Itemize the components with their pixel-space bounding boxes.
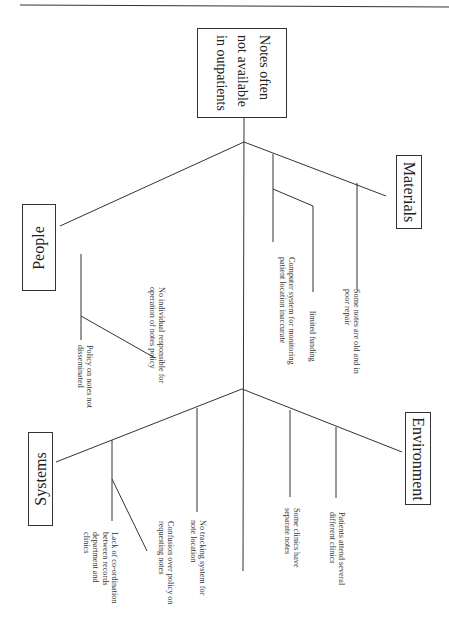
cause-line: limited funding (308, 311, 317, 362)
category-label-materials: Materials (400, 162, 418, 222)
cause-environment-2: Patients attend several different clinic… (327, 512, 346, 585)
bone-materials (244, 142, 386, 196)
category-label-environment: Environment (409, 417, 427, 501)
cause-line: different clinics (327, 512, 336, 585)
category-box-people: People (22, 204, 56, 291)
cause-systems-3: No tracking system for note location (188, 520, 207, 595)
cause-line: department and (91, 532, 100, 603)
cause-materials-1: Computer system for monitoring patient l… (277, 257, 296, 365)
cause-line: Confusion over policy on (166, 521, 175, 604)
cause-line: Some notes are old and in (352, 289, 361, 374)
cause-line: Some clinics have (292, 508, 301, 568)
cause-people-1: Policy on notes not disseminated (75, 345, 94, 408)
cause-line: disseminated (75, 345, 84, 408)
cause-line: note location (188, 520, 197, 595)
cause-materials-2: limited funding (308, 311, 317, 362)
materials-sub-line-2a (273, 189, 313, 206)
category-label-systems: Systems (32, 452, 50, 505)
cause-line: separate notes (282, 508, 291, 568)
bone-environment (242, 389, 402, 452)
cause-people-2: No individual responsible for operation … (147, 287, 166, 383)
cause-line: operation of notes policy (147, 287, 156, 383)
cause-line: poor repair (342, 289, 351, 374)
cause-systems-1: Lack of co-ordination between records de… (81, 532, 119, 603)
cause-line: clinics (81, 532, 90, 603)
category-box-environment: Environment (405, 412, 431, 505)
effect-line-3: in outpatients (209, 35, 231, 111)
category-box-materials: Materials (396, 155, 422, 229)
effect-line-1: Notes often (253, 35, 275, 111)
cause-line: patient location inaccurate (277, 257, 286, 365)
cause-line: Policy on notes not (85, 345, 94, 408)
cause-systems-2: Confusion over policy on requesting note… (156, 521, 175, 604)
cause-line: No individual responsible for (157, 287, 166, 383)
category-label-people: People (30, 226, 48, 270)
spine (243, 117, 244, 571)
cause-line: Patients attend several (337, 512, 346, 585)
cause-materials-3: Some notes are old and in poor repair (342, 289, 361, 374)
cause-line: requesting notes (156, 521, 165, 604)
effect-box: Notes often not available in outpatients (197, 28, 287, 118)
effect-label: Notes often not available in outpatients (209, 35, 274, 111)
effect-line-2: not available (231, 35, 253, 111)
cause-environment-1: Some clinics have separate notes (282, 508, 301, 568)
page-top-rule (20, 5, 449, 7)
cause-line: Computer system for monitoring (287, 257, 296, 365)
cause-line: between records (100, 532, 109, 603)
cause-line: Lack of co-ordination (110, 532, 119, 603)
category-box-systems: Systems (28, 432, 53, 526)
bone-people (60, 142, 244, 226)
cause-line: No tracking system for (198, 520, 207, 595)
